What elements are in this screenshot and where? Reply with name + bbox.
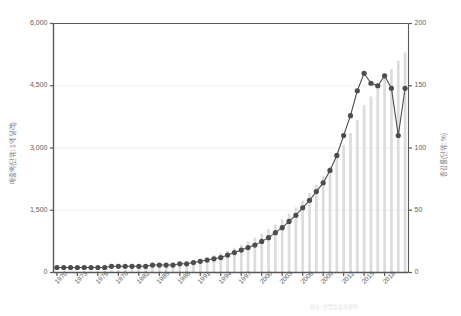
y-axis-left-tick-label: 0	[0, 268, 48, 275]
source-note: 자료: 산업통상자원부	[310, 303, 358, 310]
y-axis-right-tick-label: 50	[415, 206, 423, 213]
y-axis-left-tick-label: 1,500	[0, 206, 48, 213]
y-axis-right-title: 증감률(단위: %)	[438, 110, 448, 200]
y-axis-right-tick-label: 150	[415, 81, 427, 88]
y-axis-right-tick-label: 0	[415, 268, 419, 275]
y-axis-right-tick-label: 100	[415, 144, 427, 151]
y-axis-left-title: 매출액(단위: 1억 달러)	[7, 108, 17, 198]
y-axis-left-tick-label: 3,000	[0, 144, 48, 151]
y-axis-right-tick-label: 200	[415, 19, 427, 26]
y-axis-left-tick-label: 6,000	[0, 19, 48, 26]
y-axis-left-tick-label: 4,500	[0, 81, 48, 88]
combo-chart-svg	[0, 0, 461, 316]
chart-container: 매출액(단위: 1억 달러) 증감률(단위: %) 01,5003,0004,5…	[0, 0, 461, 316]
